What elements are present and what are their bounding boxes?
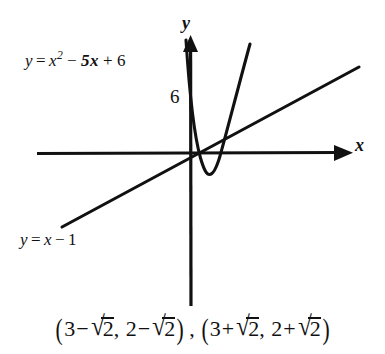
- point2-y-operator: +: [282, 316, 296, 341]
- radical-sign-icon: √: [298, 310, 312, 343]
- parabola-eq-equals: =: [33, 51, 49, 70]
- point2-close-paren: ): [322, 312, 329, 346]
- parabola-equation-label: y=x2−5x+6: [25, 50, 126, 69]
- solution-points: (3−√2, 2−√2),(3+√2, 2+√2): [0, 312, 385, 346]
- parabola-eq-minus: −: [63, 51, 81, 70]
- point2-y-whole: 2: [271, 316, 282, 341]
- line-eq-equals: =: [28, 230, 44, 249]
- point1-y-operator: −: [137, 316, 151, 341]
- radical-sign-icon: √: [152, 310, 166, 343]
- points-separator: ,: [185, 316, 200, 341]
- vinculum: [246, 317, 259, 319]
- line-eq-constant: 1: [68, 230, 77, 249]
- x-axis-label: x: [355, 136, 364, 154]
- parabola-eq-plus: +: [99, 51, 117, 70]
- radical-sign-icon: √: [91, 310, 105, 343]
- parabola-eq-constant: 6: [117, 51, 126, 70]
- point1-x-operator: −: [75, 316, 89, 341]
- point1-x-radical: √2: [90, 316, 114, 342]
- parabola-eq-lhs: y: [25, 51, 33, 70]
- point1-open-paren: (: [56, 312, 63, 346]
- line-equation-label: y=x−1: [20, 231, 77, 248]
- parabola-eq-term1-base: x: [49, 51, 57, 70]
- y-axis-label: y: [182, 14, 190, 32]
- line-eq-lhs: y: [20, 230, 28, 249]
- point1-y-radical: √2: [151, 316, 175, 342]
- point1-x-whole: 3: [64, 316, 75, 341]
- line-curve: [62, 67, 359, 227]
- line-eq-term1: x: [44, 230, 52, 249]
- point2-x-radical: √2: [235, 316, 259, 342]
- vinculum: [101, 317, 114, 319]
- y-intercept-tick-label: 6: [170, 87, 180, 106]
- point2-y-radical: √2: [297, 316, 321, 342]
- point1-close-paren: ): [177, 312, 184, 346]
- line-eq-minus: −: [52, 230, 68, 249]
- vinculum: [162, 317, 175, 319]
- radical-sign-icon: √: [236, 310, 250, 343]
- parabola-eq-term2: 5x: [81, 51, 99, 70]
- x-axis-line: [37, 153, 338, 154]
- point2-x-whole: 3: [210, 316, 221, 341]
- point2-x-operator: +: [221, 316, 235, 341]
- point2-inner-comma: ,: [259, 316, 266, 341]
- point1-y-radicand: 2: [164, 316, 175, 341]
- x-axis-arrowhead: [334, 145, 353, 161]
- point2-open-paren: (: [201, 312, 208, 346]
- point1-inner-comma: ,: [114, 316, 121, 341]
- point1-y-whole: 2: [126, 316, 137, 341]
- point2-x-radicand: 2: [248, 316, 259, 341]
- vinculum: [308, 317, 321, 319]
